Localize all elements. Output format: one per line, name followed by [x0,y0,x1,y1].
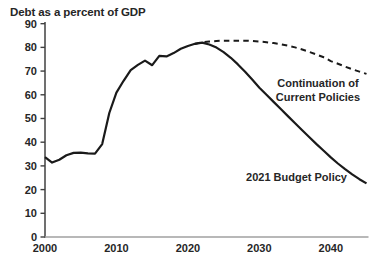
series-line-dashed [195,41,367,74]
x-tick-label-2040: 2040 [319,242,343,254]
debt-chart-page: Debt as a percent of GDP 010203040506070… [0,0,374,267]
y-tick-label-40: 40 [25,136,37,148]
y-tick-label-80: 80 [25,41,37,53]
x-tick-label-2000: 2000 [33,242,57,254]
x-tick-label-2010: 2010 [104,242,128,254]
annotation-0-line-0: Continuation of [277,77,359,89]
y-tick-label-50: 50 [25,112,37,124]
y-tick-label-10: 10 [25,207,37,219]
x-tick-label-2020: 2020 [176,242,200,254]
x-tick-label-2030: 2030 [247,242,271,254]
chart-title: Debt as a percent of GDP [10,6,146,18]
y-tick-label-70: 70 [25,65,37,77]
debt-line-chart: Debt as a percent of GDP 010203040506070… [0,0,374,267]
y-tick-label-60: 60 [25,89,37,101]
y-tick-label-30: 30 [25,160,37,172]
series-lines [45,41,367,184]
y-tick-label-90: 90 [25,18,37,30]
annotation-1-line-0: 2021 Budget Policy [246,171,348,183]
series-line-solid [45,43,367,184]
axes: 010203040506070809020002010202020302040 [25,18,369,254]
y-tick-label-20: 20 [25,184,37,196]
annotation-0-line-1: Current Policies [276,91,360,103]
